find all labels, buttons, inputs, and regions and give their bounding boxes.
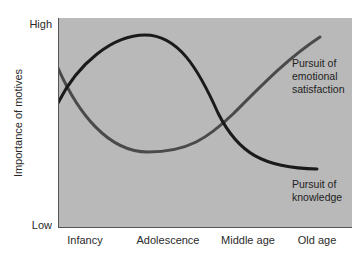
y-tick-high: High	[8, 18, 52, 30]
x-tick-old-age: Old age	[298, 234, 337, 246]
y-axis-line	[58, 18, 59, 228]
x-tick-adolescence: Adolescence	[137, 234, 200, 246]
knowledge-line	[58, 35, 317, 169]
x-tick-middle-age: Middle age	[221, 234, 275, 246]
x-axis-line	[58, 227, 352, 228]
label-emotional-satisfaction: Pursuit of emotional satisfaction	[292, 57, 345, 96]
x-tick-infancy: Infancy	[67, 234, 102, 246]
label-knowledge: Pursuit of knowledge	[292, 178, 342, 204]
y-axis-title: Importance of motives	[12, 69, 24, 177]
y-tick-low: Low	[8, 219, 52, 231]
